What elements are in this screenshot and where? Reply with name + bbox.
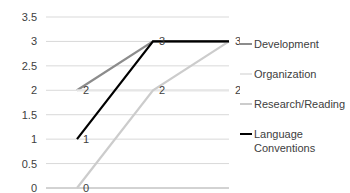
data-label: 2 [235, 84, 240, 96]
legend-item-research-reading: Research/Reading [240, 97, 348, 111]
y-tick-label: 2 [31, 84, 37, 96]
legend-swatch-development [240, 43, 252, 45]
y-tick-label: 3.5 [22, 11, 37, 23]
y-tick-label: 1 [31, 133, 37, 145]
y-axis-ticks: 00.511.522.533.5 [22, 11, 37, 193]
y-tick-label: 1.5 [22, 109, 37, 121]
data-label: 2 [83, 84, 89, 96]
gridlines [46, 17, 229, 188]
legend-swatch-organization [240, 73, 252, 75]
y-tick-label: 0 [31, 182, 37, 193]
legend-label: Development [254, 37, 348, 51]
y-tick-label: 3 [31, 35, 37, 47]
legend-label: Research/Reading [254, 97, 348, 111]
data-label: 1 [83, 133, 89, 145]
legend-label: Language Conventions [254, 127, 348, 155]
line-chart: 00.511.522.533.5 SeptemberOctoberNovembe… [0, 0, 240, 193]
y-tick-label: 2.5 [22, 60, 37, 72]
data-label: 0 [83, 182, 89, 193]
legend-item-development: Development [240, 37, 348, 51]
data-label: 2 [159, 84, 165, 96]
data-label: 3 [159, 35, 165, 47]
legend-item-language-conventions: Language Conventions [240, 127, 348, 155]
legend-item-organization: Organization [240, 67, 348, 81]
legend-label: Organization [254, 67, 348, 81]
legend-swatch-research-reading [240, 103, 252, 105]
y-tick-label: 0.5 [22, 158, 37, 170]
legend-swatch-language-conventions [240, 133, 252, 135]
